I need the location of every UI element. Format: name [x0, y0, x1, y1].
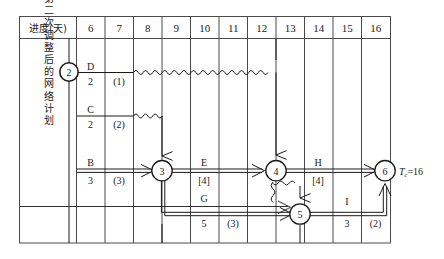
activity-E-arrowhead [252, 164, 265, 177]
node-2-label: 2 [67, 67, 72, 78]
row-label-vertical: 第二次调整后的网络计划 [43, 0, 54, 127]
tc-value: =16 [407, 166, 423, 177]
header-col-10: 10 [199, 22, 211, 34]
activity-H-name: H [314, 157, 321, 168]
header-col-14: 14 [313, 22, 325, 34]
activity-C-float: (2) [113, 119, 125, 131]
header-col-12: 12 [256, 22, 267, 34]
activity-D-duration: 2 [88, 76, 93, 87]
node-6-label: 6 [383, 166, 388, 177]
network-schedule-diagram: 进度(天) 6 7 8 9 10 11 12 13 14 15 16 第二次调整… [0, 0, 444, 259]
activity-C-name: C [87, 104, 94, 115]
header-col-6: 6 [88, 22, 94, 34]
activity-D-float: (1) [113, 76, 125, 88]
svg-text:Tc=16: Tc=16 [399, 166, 423, 179]
activity-I-float: (2) [370, 218, 382, 230]
header-col-11: 11 [228, 22, 239, 34]
activity-G-float: (3) [227, 218, 239, 230]
node-4-label: 4 [274, 166, 279, 177]
activity-B-duration: 3 [88, 175, 93, 186]
activity-E-name: E [201, 157, 207, 168]
activity-I-name: I [345, 196, 348, 207]
header-col-13: 13 [285, 22, 297, 34]
header-col-16: 16 [370, 22, 382, 34]
activity-B-float: (3) [113, 175, 125, 187]
header-col-7: 7 [116, 22, 122, 34]
activity-H-duration: [4] [312, 175, 324, 186]
total-duration-label: Tc=16 [399, 166, 423, 179]
activity-G-name: G [200, 193, 207, 204]
node-3-label: 3 [160, 166, 165, 177]
activity-I-arrowhead [379, 184, 391, 197]
activity-C-float-wave [134, 114, 163, 118]
header-col-8: 8 [145, 22, 151, 34]
activity-E-duration: [4] [198, 175, 210, 186]
activity-C-duration: 2 [88, 119, 93, 130]
activity-labels: D 2 (1) C 2 (2) B 3 (3) E [4] G 5 (3) H … [87, 61, 381, 231]
header-col-9: 9 [173, 22, 179, 34]
activity-I-duration: 3 [345, 218, 350, 229]
diagram-canvas: 进度(天) 6 7 8 9 10 11 12 13 14 15 16 第二次调整… [0, 0, 444, 259]
header-col-15: 15 [342, 22, 354, 34]
activity-G-duration: 5 [202, 218, 207, 229]
activity-B-name: B [87, 157, 94, 168]
activity-D-name: D [87, 61, 94, 72]
node-5-label: 5 [298, 209, 303, 220]
table-grid [20, 17, 391, 244]
